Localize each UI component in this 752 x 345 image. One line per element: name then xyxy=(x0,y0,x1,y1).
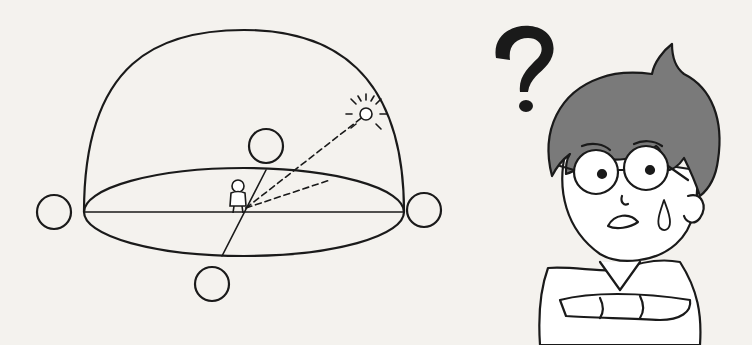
question-mark-icon xyxy=(495,26,553,112)
illustration-svg xyxy=(0,0,752,345)
glasses-left-lens xyxy=(574,150,618,194)
celestial-dome-diagram xyxy=(37,30,441,301)
sun-icon xyxy=(346,94,387,129)
south-marker-circle xyxy=(195,267,229,301)
east-marker-circle xyxy=(407,193,441,227)
west-marker-circle xyxy=(37,195,71,229)
observer-figure xyxy=(230,180,246,213)
north-marker-circle xyxy=(249,129,283,163)
illustration-canvas xyxy=(0,0,752,345)
confused-boy-character xyxy=(539,44,719,345)
